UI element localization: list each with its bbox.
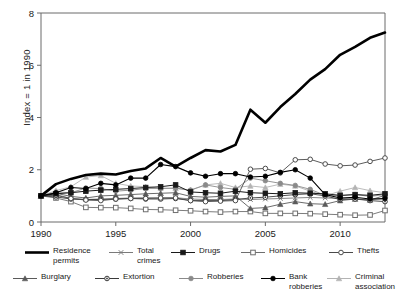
data-point-marker bbox=[233, 171, 238, 176]
data-point-marker bbox=[143, 196, 148, 201]
data-point-marker bbox=[323, 192, 328, 197]
data-point-marker bbox=[383, 156, 388, 161]
legend-item-criminal-association[interactable]: Criminal association bbox=[326, 272, 396, 291]
data-point-marker bbox=[233, 209, 238, 214]
data-point-marker bbox=[383, 208, 388, 213]
legend-swatch-icon bbox=[240, 247, 266, 258]
data-point-marker bbox=[218, 191, 223, 196]
data-point-marker bbox=[338, 164, 343, 169]
data-point-marker bbox=[263, 166, 268, 171]
data-point-marker bbox=[99, 188, 104, 193]
y-tick-label: 0 bbox=[29, 217, 34, 228]
legend-item-residence-permits[interactable]: Residence permits bbox=[24, 246, 108, 265]
data-point-marker bbox=[293, 190, 298, 195]
data-point-marker bbox=[189, 276, 194, 281]
legend-swatch-icon bbox=[326, 273, 352, 284]
data-point-marker bbox=[69, 190, 74, 195]
legend-item-robberies[interactable]: Robberies bbox=[178, 272, 260, 291]
legend-swatch-icon bbox=[170, 247, 196, 258]
data-point-marker bbox=[173, 196, 178, 201]
data-point-marker bbox=[251, 250, 256, 255]
data-point-marker bbox=[143, 207, 148, 212]
data-point-marker bbox=[218, 210, 223, 215]
data-point-marker bbox=[353, 195, 358, 200]
data-point-marker bbox=[248, 175, 253, 180]
data-point-marker bbox=[188, 208, 193, 213]
data-point-marker bbox=[383, 191, 388, 196]
data-point-marker bbox=[368, 197, 373, 202]
x-tick-label: 2000 bbox=[180, 228, 201, 239]
legend-item-homicides[interactable]: Homicides bbox=[240, 246, 328, 265]
data-point-marker bbox=[383, 196, 388, 201]
data-point-marker bbox=[293, 211, 298, 216]
data-point-marker bbox=[69, 196, 74, 201]
data-point-marker bbox=[278, 191, 283, 196]
data-point-marker bbox=[203, 190, 208, 195]
x-tick-label: 1990 bbox=[30, 228, 51, 239]
data-point-marker bbox=[69, 185, 74, 190]
data-point-marker bbox=[158, 196, 163, 201]
legend-row-2: BurglaryExtortionRobberiesBank robberies… bbox=[0, 272, 400, 291]
x-tick-label: 2010 bbox=[330, 228, 351, 239]
data-point-marker bbox=[308, 157, 313, 162]
data-point-marker bbox=[173, 208, 178, 213]
data-point-marker bbox=[263, 211, 268, 216]
data-point-marker bbox=[308, 211, 313, 216]
legend-label: Extortion bbox=[123, 272, 155, 282]
data-point-marker bbox=[353, 213, 358, 218]
legend-label: Bank robberies bbox=[289, 272, 322, 291]
legend-item-drugs[interactable]: Drugs bbox=[170, 246, 240, 265]
data-point-marker bbox=[323, 212, 328, 217]
legend-row-1: Residence permitsTotal crimesDrugsHomici… bbox=[0, 246, 400, 265]
data-point-marker bbox=[181, 250, 186, 255]
data-point-marker bbox=[338, 212, 343, 217]
data-point-marker bbox=[158, 207, 163, 212]
legend-swatch-icon bbox=[260, 273, 286, 284]
data-point-marker bbox=[293, 183, 298, 188]
data-point-marker bbox=[188, 171, 193, 176]
data-point-marker bbox=[99, 198, 104, 203]
data-point-marker bbox=[128, 196, 133, 201]
legend-label: Drugs bbox=[199, 246, 220, 256]
legend-swatch-icon bbox=[24, 247, 50, 258]
data-point-marker bbox=[128, 206, 133, 211]
data-point-marker bbox=[105, 276, 110, 281]
data-point-marker bbox=[113, 205, 118, 210]
chart-figure: Index = 1 in 1990 0246819901995200020052… bbox=[0, 0, 400, 300]
data-point-marker bbox=[278, 181, 283, 186]
data-point-marker bbox=[99, 181, 104, 186]
legend-item-extortion[interactable]: Extortion bbox=[94, 272, 178, 291]
data-point-marker bbox=[173, 183, 178, 188]
series-line bbox=[41, 33, 385, 196]
legend-label: Homicides bbox=[269, 246, 306, 256]
y-tick-label: 8 bbox=[29, 8, 34, 19]
data-point-marker bbox=[203, 199, 208, 204]
data-point-marker bbox=[368, 213, 373, 218]
data-point-marker bbox=[293, 167, 298, 172]
series-residence-permits bbox=[41, 33, 385, 196]
y-tick-label: 6 bbox=[29, 60, 34, 71]
legend-item-thefts[interactable]: Thefts bbox=[328, 246, 388, 265]
data-point-marker bbox=[352, 185, 357, 190]
legend-item-burglary[interactable]: Burglary bbox=[12, 272, 94, 291]
data-point-marker bbox=[233, 198, 238, 203]
legend-swatch-icon bbox=[12, 273, 38, 284]
chart-legend: Residence permitsTotal crimesDrugsHomici… bbox=[0, 246, 400, 300]
data-point-marker bbox=[54, 190, 59, 195]
legend-item-bank-robberies[interactable]: Bank robberies bbox=[260, 272, 326, 291]
legend-item-total-crimes[interactable]: Total crimes bbox=[108, 246, 170, 265]
data-point-marker bbox=[263, 178, 268, 183]
legend-label: Thefts bbox=[357, 246, 379, 256]
data-point-marker bbox=[203, 183, 208, 188]
data-point-marker bbox=[158, 184, 163, 189]
data-point-marker bbox=[218, 171, 223, 176]
legend-label: Residence permits bbox=[53, 246, 91, 265]
data-point-marker bbox=[323, 162, 328, 167]
data-point-marker bbox=[143, 185, 148, 190]
data-point-marker bbox=[113, 187, 118, 192]
data-point-marker bbox=[278, 211, 283, 216]
data-point-marker bbox=[99, 205, 104, 210]
data-point-marker bbox=[203, 209, 208, 214]
data-point-marker bbox=[338, 196, 343, 201]
x-tick-label: 2005 bbox=[255, 228, 276, 239]
